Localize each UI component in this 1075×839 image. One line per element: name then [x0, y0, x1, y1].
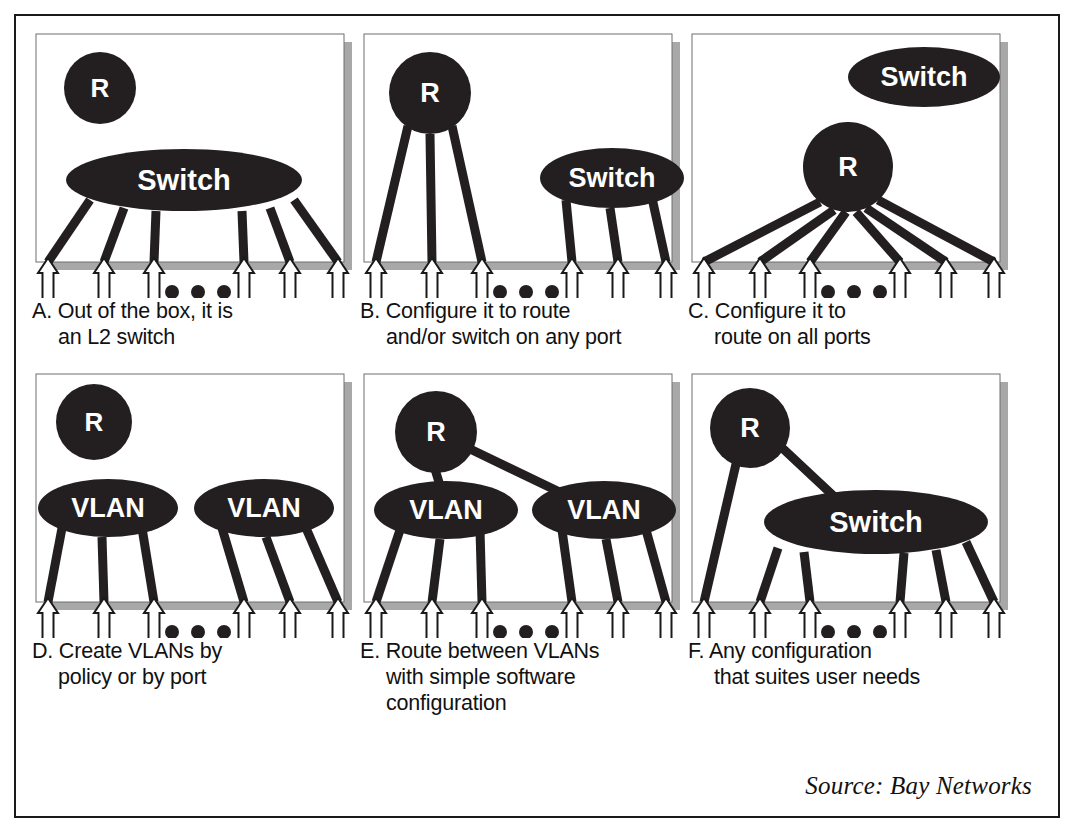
- caption-line: route on all ports: [688, 324, 1012, 350]
- ellipsis-dot: [821, 285, 835, 298]
- source-attribution: Source: Bay Networks: [805, 772, 1032, 800]
- ellipsis-dot: [519, 285, 533, 298]
- figure-frame: RSwitchA. Out of the box, it isan L2 swi…: [14, 14, 1060, 818]
- port-leg: [804, 552, 810, 602]
- router-node-label: R: [426, 417, 446, 447]
- port-leg: [430, 134, 432, 262]
- caption-line: F. Any configuration: [688, 638, 1012, 664]
- switch-node: Switch: [848, 47, 1000, 107]
- ellipsis-dot: [493, 625, 507, 638]
- vlan-node-right: VLAN: [532, 481, 676, 539]
- router-node-label: R: [91, 73, 110, 103]
- ellipsis-dot: [493, 285, 507, 298]
- caption-line: E. Route between VLANs: [360, 638, 684, 664]
- switch-node-label: Switch: [829, 506, 922, 538]
- panel-e-caption: E. Route between VLANswith simple softwa…: [360, 638, 684, 716]
- switch-node-label: Switch: [880, 62, 967, 92]
- panel-b-caption: B. Configure it to routeand/or switch on…: [360, 298, 684, 350]
- caption-line: B. Configure it to route: [360, 298, 684, 324]
- router-node-label: R: [420, 78, 440, 108]
- router-node: R: [710, 388, 790, 468]
- switch-node-label: Switch: [137, 164, 230, 196]
- router-node: R: [395, 391, 477, 473]
- router-node: R: [389, 52, 471, 134]
- ellipsis-dot: [821, 625, 835, 638]
- vlan-node-right-label: VLAN: [567, 495, 641, 525]
- port-leg: [480, 530, 482, 602]
- caption-line: with simple software: [360, 664, 684, 690]
- panel-f-caption: F. Any configurationthat suites user nee…: [688, 638, 1012, 690]
- caption-line: C. Configure it to: [688, 298, 1012, 324]
- vlan-node-left: VLAN: [38, 479, 178, 537]
- ellipsis-dot: [217, 285, 231, 298]
- ellipsis-dot: [191, 625, 205, 638]
- ellipsis-dot: [217, 625, 231, 638]
- router-node: R: [56, 384, 132, 460]
- panel-f: RSwitchF. Any configurationthat suites u…: [688, 370, 1012, 710]
- port-leg: [154, 211, 156, 262]
- panel-a-caption: A. Out of the box, it isan L2 switch: [32, 298, 356, 350]
- caption-line: A. Out of the box, it is: [32, 298, 356, 324]
- router-node-label: R: [740, 413, 760, 443]
- panel-d: RVLANVLAND. Create VLANs bypolicy or by …: [32, 370, 356, 710]
- router-node: R: [64, 52, 136, 124]
- panel-e-diagram: RVLANVLAN: [360, 370, 684, 638]
- ellipsis-dot: [545, 625, 559, 638]
- panel-e: RVLANVLANE. Route between VLANswith simp…: [360, 370, 684, 710]
- switch-node: Switch: [764, 490, 988, 554]
- vlan-node-right: VLAN: [194, 479, 334, 537]
- switch-node: Switch: [540, 148, 684, 208]
- switch-node: Switch: [66, 149, 302, 211]
- panel-a-diagram: RSwitch: [32, 30, 356, 298]
- ellipsis-dot: [873, 625, 887, 638]
- panel-b: RSwitchB. Configure it to routeand/or sw…: [360, 30, 684, 370]
- panel-c: SwitchRC. Configure it toroute on all po…: [688, 30, 1012, 370]
- router-node-label: R: [85, 407, 104, 437]
- caption-line: D. Create VLANs by: [32, 638, 356, 664]
- ellipsis-dot: [165, 285, 179, 298]
- ellipsis-dot: [847, 625, 861, 638]
- caption-line: an L2 switch: [32, 324, 356, 350]
- panel-b-diagram: RSwitch: [360, 30, 684, 298]
- panel-c-diagram: SwitchR: [688, 30, 1012, 298]
- ellipsis-dot: [847, 285, 861, 298]
- router-node-label: R: [838, 152, 858, 182]
- ellipsis-dot: [519, 625, 533, 638]
- panel-grid: RSwitchA. Out of the box, it isan L2 swi…: [16, 16, 1062, 820]
- panel-d-caption: D. Create VLANs bypolicy or by port: [32, 638, 356, 690]
- panel-d-diagram: RVLANVLAN: [32, 370, 356, 638]
- vlan-node-left: VLAN: [374, 481, 518, 539]
- vlan-node-left-label: VLAN: [71, 493, 145, 523]
- ellipsis-dot: [873, 285, 887, 298]
- ellipsis-dot: [191, 285, 205, 298]
- vlan-node-left-label: VLAN: [409, 495, 483, 525]
- switch-node-label: Switch: [568, 163, 655, 193]
- caption-line: policy or by port: [32, 664, 356, 690]
- port-leg: [242, 211, 244, 262]
- router-node: R: [803, 122, 893, 212]
- panel-f-diagram: RSwitch: [688, 370, 1012, 638]
- port-leg: [900, 553, 904, 602]
- port-leg: [102, 537, 104, 602]
- panel-c-caption: C. Configure it toroute on all ports: [688, 298, 1012, 350]
- ellipsis-dot: [165, 625, 179, 638]
- ellipsis-dot: [545, 285, 559, 298]
- panel-a: RSwitchA. Out of the box, it isan L2 swi…: [32, 30, 356, 370]
- port-leg: [566, 200, 572, 262]
- caption-line: and/or switch on any port: [360, 324, 684, 350]
- vlan-node-right-label: VLAN: [227, 493, 301, 523]
- caption-line: that suites user needs: [688, 664, 1012, 690]
- caption-line: configuration: [360, 690, 684, 716]
